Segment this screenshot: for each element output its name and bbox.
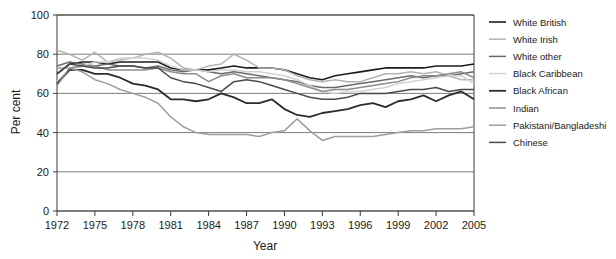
- legend-label-indian: Indian: [513, 103, 539, 114]
- x-tick-label-2005: 2005: [462, 219, 486, 231]
- x-tick-label-1981: 1981: [158, 219, 182, 231]
- y-tick-label-0: 0: [43, 205, 49, 217]
- chart-figure: 020406080100 197219751978198119841987199…: [0, 0, 616, 259]
- series-line-indian: [57, 66, 474, 91]
- x-tick-label-1996: 1996: [348, 219, 372, 231]
- y-tick-label-80: 80: [37, 48, 49, 60]
- x-tick-label-1987: 1987: [234, 219, 258, 231]
- x-axis-ticks: [57, 211, 474, 216]
- x-tick-label-1984: 1984: [196, 219, 220, 231]
- y-tick-label-20: 20: [37, 166, 49, 178]
- x-tick-label-1975: 1975: [83, 219, 107, 231]
- series-line-pakistani-bangladeshi: [57, 68, 474, 141]
- legend-label-white-other: White other: [513, 51, 562, 62]
- legend-label-white-irish: White Irish: [513, 34, 558, 45]
- x-axis-tick-labels: 1972197519781981198419871990199319961999…: [45, 219, 486, 231]
- chart-legend: White BritishWhite IrishWhite otherBlack…: [489, 17, 606, 148]
- y-tick-label-60: 60: [37, 87, 49, 99]
- y-axis-tick-labels: 020406080100: [31, 9, 49, 217]
- legend-label-chinese: Chinese: [513, 137, 548, 148]
- x-tick-label-1999: 1999: [386, 219, 410, 231]
- legend-label-black-african: Black African: [513, 85, 568, 96]
- gridlines: [57, 15, 474, 211]
- legend-label-white-british: White British: [513, 17, 566, 28]
- line-chart: 020406080100 197219751978198119841987199…: [0, 0, 616, 259]
- x-axis-title: Year: [253, 239, 277, 253]
- data-series-group: [57, 50, 474, 140]
- x-tick-label-1978: 1978: [121, 219, 145, 231]
- y-tick-label-100: 100: [31, 9, 49, 21]
- plot-frame: [57, 15, 474, 211]
- legend-label-black-caribbean: Black Caribbean: [513, 68, 583, 79]
- x-tick-label-2002: 2002: [424, 219, 448, 231]
- legend-label-pakistani-bangladeshi: Pakistani/Bangladeshi: [513, 120, 606, 131]
- y-axis-ticks: [53, 15, 57, 211]
- x-tick-label-1990: 1990: [272, 219, 296, 231]
- y-tick-label-40: 40: [37, 127, 49, 139]
- x-tick-label-1993: 1993: [310, 219, 334, 231]
- y-axis-title: Per cent: [9, 89, 23, 134]
- x-tick-label-1972: 1972: [45, 219, 69, 231]
